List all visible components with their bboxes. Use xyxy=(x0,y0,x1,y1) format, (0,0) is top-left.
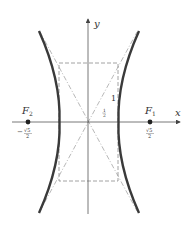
diagram-canvas: y x F2 F1 − √5 2 √5 2 1 1 2 xyxy=(0,0,196,229)
hyperbola-diagram: y x F2 F1 − √5 2 √5 2 1 1 2 xyxy=(0,0,196,229)
focus-f2-value: − √5 2 xyxy=(17,127,32,139)
svg-text:2: 2 xyxy=(26,133,29,139)
svg-text:2: 2 xyxy=(103,113,106,118)
svg-text:−: − xyxy=(17,128,23,136)
y-axis-label: y xyxy=(93,18,100,29)
svg-text:2: 2 xyxy=(148,133,151,139)
half-width-label: 1 2 xyxy=(102,108,106,118)
focus-f1-point xyxy=(148,120,153,125)
focus-f1-label: F1 xyxy=(144,105,156,117)
focus-f2-point xyxy=(26,120,31,125)
focus-f1-value: √5 2 xyxy=(146,127,154,139)
x-axis-label: x xyxy=(175,107,181,118)
focus-f2-label: F2 xyxy=(21,105,33,117)
height-label: 1 xyxy=(111,94,116,103)
